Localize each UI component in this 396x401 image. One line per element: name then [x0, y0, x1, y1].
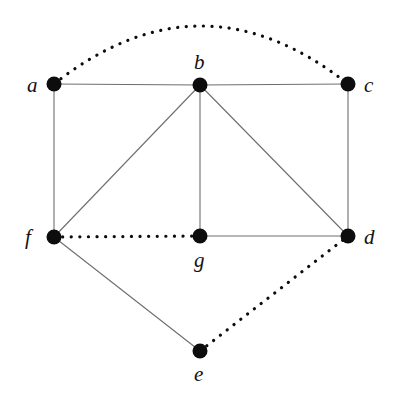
graph-edge-b-f	[54, 85, 200, 237]
graph-edge-b-c	[200, 84, 348, 85]
graph-vertex-c	[341, 77, 356, 92]
graph-edge-a-b	[54, 84, 200, 85]
vertex-label-e: e	[194, 364, 203, 385]
graph-edge-f-g	[54, 236, 200, 237]
vertex-label-b: b	[194, 52, 205, 73]
vertex-label-c: c	[364, 75, 373, 96]
graph-vertex-b	[193, 78, 208, 93]
graph-vertex-g	[193, 229, 208, 244]
vertex-label-a: a	[27, 75, 38, 96]
graph-vertex-f	[47, 230, 62, 245]
graph-edge-f-e	[54, 237, 200, 351]
vertex-label-g: g	[194, 250, 205, 271]
vertex-label-d: d	[364, 227, 375, 248]
vertex-label-f: f	[25, 227, 31, 248]
graph-edge-b-d	[200, 85, 348, 236]
vertex-layer	[47, 77, 356, 359]
graph-vertex-a	[47, 77, 62, 92]
graph-figure: abcdefg	[0, 0, 396, 401]
graph-edge-e-d	[200, 236, 348, 351]
graph-vertex-d	[341, 229, 356, 244]
graph-vertex-e	[193, 344, 208, 359]
edge-layer	[54, 26, 348, 351]
